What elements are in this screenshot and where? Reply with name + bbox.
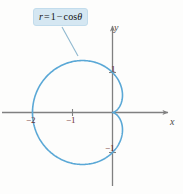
x-tick-label-minus-2: −2 xyxy=(26,115,36,125)
y-axis-label: y xyxy=(114,22,118,33)
cardioid-figure: r=1−cosθ x y −2 −1 1 −1 xyxy=(0,0,183,194)
equation-cos: cos xyxy=(64,11,78,22)
y-tick-label-1: 1 xyxy=(111,64,116,74)
equation-minus: − xyxy=(56,11,64,22)
y-tick-label-minus-1: −1 xyxy=(105,143,115,153)
cardioid-final-layer xyxy=(0,0,183,194)
equation-equals: = xyxy=(43,11,51,22)
x-axis-label: x xyxy=(170,116,174,127)
x-tick-label-minus-1: −1 xyxy=(66,115,76,125)
equation-theta: θ xyxy=(77,11,82,22)
equation-callout-box: r=1−cosθ xyxy=(33,8,88,26)
